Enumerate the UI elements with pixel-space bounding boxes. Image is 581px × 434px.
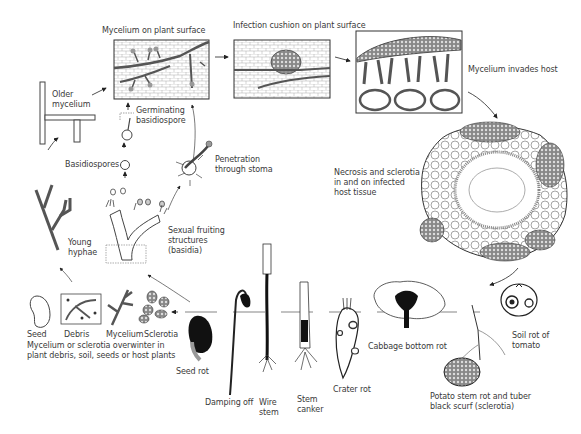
- label-potato: Potato stem rot and tuber black scurf (s…: [430, 392, 531, 412]
- label-seed-rot: Seed rot: [176, 367, 209, 377]
- penetration-stoma-drawing: [176, 141, 212, 186]
- damping-off-drawing: [230, 291, 250, 395]
- label-older-mycelium: Older mycelium: [52, 90, 90, 110]
- potato-stem-rot-drawing: [444, 305, 505, 386]
- label-basidiospores: Basidiospores: [65, 160, 119, 170]
- label-basidia: (basidia): [168, 246, 202, 256]
- label-young-hyphae: Young hyphae: [68, 238, 97, 258]
- crater-rot-drawing: [336, 298, 358, 378]
- label-crater-rot: Crater rot: [333, 385, 371, 395]
- panel-mycelium-surface: [114, 40, 209, 99]
- cabbage-bottom-rot-drawing: [374, 281, 445, 328]
- label-overwinter: Mycelium or sclerotia overwinter in plan…: [27, 341, 175, 361]
- basidia-drawing: [106, 199, 167, 263]
- overwinter-drawings: [30, 290, 169, 327]
- label-sclerotia: Sclerotia: [144, 330, 178, 340]
- label-seed: Seed: [27, 330, 47, 340]
- label-debris: Debris: [64, 330, 89, 340]
- panel-necrosis-cross-section: [420, 122, 567, 261]
- tomato-soil-rot-drawing: [501, 284, 537, 316]
- wire-stem-drawing: [259, 244, 276, 372]
- panel-host-invasion: [356, 31, 462, 113]
- label-germinating-basidiospore: Germinating basidiospore: [136, 106, 186, 126]
- label-mycelium-invades: Mycelium invades host: [468, 65, 558, 75]
- stem-canker-drawing: [295, 282, 317, 370]
- panel-infection-cushion: [234, 40, 330, 98]
- label-sexual-fruiting: Sexual fruiting structures: [168, 226, 225, 246]
- label-damping-off: Damping off: [205, 398, 253, 408]
- label-stem-canker: Stem canker: [297, 395, 323, 415]
- label-mycelium-on-surface: Mycelium on plant surface: [102, 26, 205, 36]
- germinating-basidiospore-drawing: [120, 113, 134, 140]
- label-infection-cushion: Infection cushion on plant surface: [233, 21, 366, 31]
- label-wire-stem: Wire stem: [259, 398, 279, 418]
- young-hyphae-drawing: [36, 185, 70, 250]
- label-tomato: Soil rot of tomato: [512, 331, 549, 351]
- label-cabbage-bottom-rot: Cabbage bottom rot: [368, 342, 447, 352]
- label-necrosis: Necrosis and sclerotia in and on infecte…: [334, 168, 420, 198]
- label-penetration: Penetration through stoma: [215, 155, 273, 175]
- seed-rot-drawing: [189, 316, 213, 360]
- label-mycelium: Mycelium: [106, 330, 143, 340]
